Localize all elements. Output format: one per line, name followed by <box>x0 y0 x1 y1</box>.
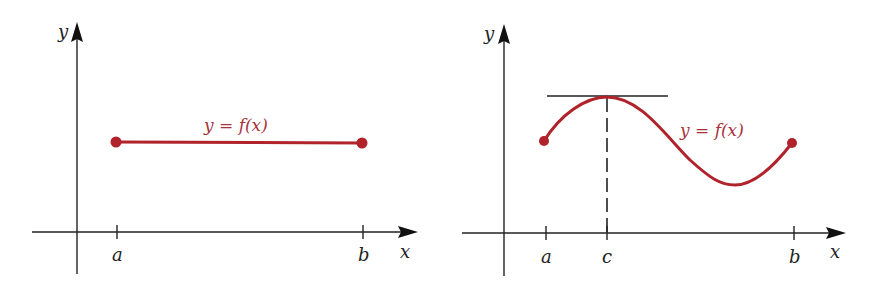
left-tick-label-b: b <box>358 244 370 265</box>
figure: y x a b y = f(x) y x a c b y = f(x) <box>0 0 872 291</box>
right-y-axis-arrow-icon <box>498 24 510 44</box>
right-function-label: y = f(x) <box>679 120 744 140</box>
right-graph: y x a c b y = f(x) <box>462 23 846 276</box>
left-endpoint-a <box>111 137 122 148</box>
right-x-axis-label: x <box>830 241 840 262</box>
right-tick-label-a: a <box>541 246 552 267</box>
left-x-axis-arrow-icon <box>398 226 418 238</box>
left-graph: y x a b y = f(x) <box>32 21 418 274</box>
right-y-axis-label: y <box>483 23 495 44</box>
right-endpoint-b <box>787 138 797 148</box>
right-endpoint-a <box>539 136 549 146</box>
right-x-axis-arrow-icon <box>826 227 846 239</box>
left-function-line <box>116 142 362 143</box>
right-function-curve <box>544 97 792 185</box>
left-y-axis-arrow-icon <box>71 22 83 42</box>
left-endpoint-b <box>357 138 368 149</box>
left-y-axis-label: y <box>57 21 69 42</box>
right-tick-label-b: b <box>789 246 801 267</box>
left-function-label: y = f(x) <box>203 115 268 135</box>
right-tick-label-c: c <box>602 246 612 267</box>
left-tick-label-a: a <box>112 244 123 265</box>
left-x-axis-label: x <box>400 241 410 262</box>
